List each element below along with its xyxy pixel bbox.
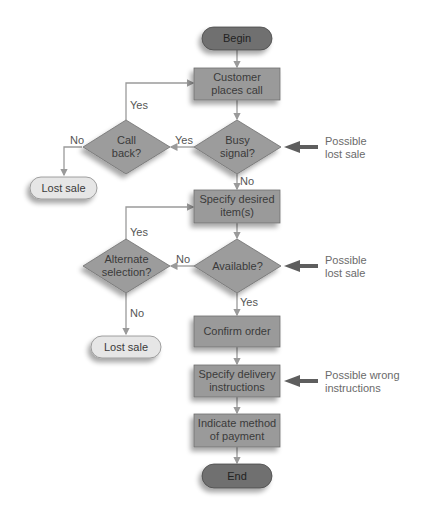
busy-annotation-line-1: Possible bbox=[325, 135, 367, 148]
alternate-selection-line-1: Alternate bbox=[83, 253, 170, 266]
call-back-line-1: Call bbox=[83, 134, 170, 147]
indicate-payment-line-2: of payment bbox=[194, 430, 280, 443]
call-back-label: Call back? bbox=[83, 134, 170, 160]
alternate-yes-label: Yes bbox=[130, 226, 148, 238]
alternate-selection-label: Alternate selection? bbox=[83, 253, 170, 279]
confirm-order-label: Confirm order bbox=[194, 325, 280, 338]
call-back-line-2: back? bbox=[83, 147, 170, 160]
available-annotation-line-2: lost sale bbox=[325, 267, 367, 280]
busy-signal-line-2: signal? bbox=[194, 147, 281, 160]
available-no-label: No bbox=[176, 253, 190, 265]
indicate-payment-line-1: Indicate method bbox=[194, 417, 280, 430]
available-label: Available? bbox=[194, 260, 281, 273]
available-annotation-line-1: Possible bbox=[325, 254, 367, 267]
delivery-annotation-line-1: Possible wrong bbox=[325, 369, 400, 382]
customer-places-call-line-1: Customer bbox=[194, 71, 280, 84]
callback-yes-label: Yes bbox=[130, 99, 148, 111]
callback-no-label: No bbox=[70, 134, 84, 146]
busy-signal-label: Busy signal? bbox=[194, 134, 281, 160]
alternate-no-label: No bbox=[130, 307, 144, 319]
specify-items-label: Specify desired item(s) bbox=[194, 193, 280, 219]
available-annotation: Possible lost sale bbox=[325, 254, 367, 280]
busy-no-label: No bbox=[240, 175, 254, 187]
available-risk-arrow-icon bbox=[284, 260, 318, 272]
alternate-selection-line-2: selection? bbox=[83, 266, 170, 279]
specify-delivery-line-2: instructions bbox=[194, 381, 280, 394]
specify-items-line-1: Specify desired bbox=[194, 193, 280, 206]
lost-sale-1-label: Lost sale bbox=[30, 182, 97, 195]
specify-delivery-label: Specify delivery instructions bbox=[194, 368, 280, 394]
delivery-risk-arrow-icon bbox=[284, 375, 318, 387]
delivery-annotation: Possible wrong instructions bbox=[325, 369, 400, 395]
busy-risk-arrow-icon bbox=[284, 141, 318, 153]
available-yes-label: Yes bbox=[240, 296, 258, 308]
indicate-payment-label: Indicate method of payment bbox=[194, 417, 280, 443]
customer-places-call-line-2: places call bbox=[194, 84, 280, 97]
specify-delivery-line-1: Specify delivery bbox=[194, 368, 280, 381]
customer-places-call-label: Customer places call bbox=[194, 71, 280, 97]
specify-items-line-2: item(s) bbox=[194, 206, 280, 219]
lost-sale-2-label: Lost sale bbox=[91, 341, 161, 354]
busy-yes-label: Yes bbox=[175, 134, 193, 146]
end-label: End bbox=[202, 470, 272, 483]
begin-label: Begin bbox=[202, 32, 272, 45]
busy-annotation: Possible lost sale bbox=[325, 135, 367, 161]
busy-annotation-line-2: lost sale bbox=[325, 148, 367, 161]
busy-signal-line-1: Busy bbox=[194, 134, 281, 147]
delivery-annotation-line-2: instructions bbox=[325, 382, 400, 395]
